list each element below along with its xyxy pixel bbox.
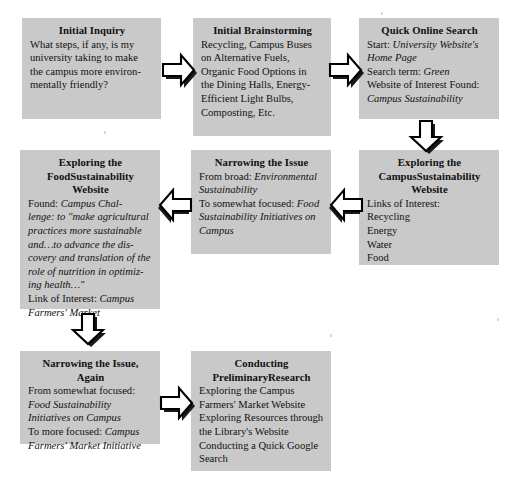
text-italic: Sustainability	[199, 184, 257, 195]
text-plain: Website of Interest Found:	[367, 79, 479, 90]
node-body-line: mentally friendly?	[30, 78, 154, 92]
node-initial-inquiry[interactable]: Initial Inquiry What steps, if any, is m…	[22, 18, 161, 119]
node-body-line: Search	[199, 452, 324, 466]
node-exploring-food-sustainability[interactable]: Exploring the FoodSustainability Website…	[20, 150, 160, 309]
arrow-brainstorming-to-search	[326, 48, 366, 92]
node-body-line: Exploring Resources through	[199, 411, 324, 425]
text-italic: Green	[423, 66, 449, 77]
node-body-line: the campus more environ-	[30, 65, 154, 79]
node-body: Links of Interest:RecyclingEnergyWaterFo…	[367, 197, 492, 265]
text-italic: Food Sustainability	[28, 399, 111, 410]
node-title: Narrowing the Issue, Again	[28, 357, 153, 384]
node-body-line: To somewhat focused: Food	[199, 197, 324, 211]
node-body-line: lenge: to "make agricultural	[28, 210, 153, 224]
node-body-line: the Dining Halls, Energy-	[201, 78, 324, 92]
node-body-line: and…to advance the dis-	[28, 238, 153, 252]
text-italic: ing health…"	[28, 279, 85, 290]
node-body-line: practices more sustainable	[28, 224, 153, 238]
node-body-line: Water	[367, 238, 492, 252]
node-body-line: university taking to make	[30, 51, 154, 65]
node-body-line: From somewhat focused:	[28, 384, 153, 398]
node-body-line: Sustainability Initiatives on	[199, 210, 324, 224]
node-body: Recycling, Campus Buseson Alternative Fu…	[201, 38, 324, 120]
text-italic: role of nutrition in optimiz-	[28, 266, 144, 277]
node-initial-brainstorming[interactable]: Initial Brainstorming Recycling, Campus …	[193, 18, 331, 136]
node-body-line: Efficient Light Bulbs,	[201, 92, 324, 106]
scan-speck	[104, 131, 106, 134]
node-body-line: Search term: Green	[367, 65, 492, 79]
node-title: Narrowing the Issue	[199, 156, 324, 170]
node-body-line: Campus	[199, 224, 324, 238]
node-body-line: What steps, if any, is my	[30, 38, 154, 52]
node-title: Initial Inquiry	[30, 24, 154, 38]
text-italic: University Website's	[393, 39, 479, 50]
text-plain: Start:	[367, 39, 393, 50]
node-title: Initial Brainstorming	[201, 24, 324, 38]
node-body-line: covery and translation of the	[28, 251, 153, 265]
text-italic: Farmers' Market Initiative	[28, 440, 141, 451]
node-body-line: Links of Interest:	[367, 197, 492, 211]
node-body-line: Food Sustainability	[28, 398, 153, 412]
text-italic: Food	[297, 198, 319, 209]
node-title-line: Research	[268, 371, 310, 383]
node-body-line: Farmers' Market Initiative	[28, 439, 153, 453]
text-italic: and…to advance the dis-	[28, 239, 134, 250]
arrow-search-to-campus-site	[404, 118, 448, 158]
node-body: Start: University Website'sHome PageSear…	[367, 38, 492, 106]
node-narrowing-the-issue-again[interactable]: Narrowing the Issue, Again From somewhat…	[20, 351, 160, 444]
scan-speck	[330, 334, 332, 337]
node-narrowing-the-issue[interactable]: Narrowing the Issue From broad: Environm…	[191, 150, 331, 254]
node-title-line: Sustainability Website	[70, 170, 134, 196]
text-italic: Campus	[100, 293, 135, 304]
text-plain: From broad:	[199, 171, 254, 182]
text-italic: Campus Sustainability	[367, 93, 463, 104]
node-body-line: Link of Interest: Campus	[28, 292, 153, 306]
text-plain: To more focused:	[28, 426, 105, 437]
text-plain: Found:	[28, 198, 61, 209]
scan-speck	[497, 318, 499, 321]
node-title: Quick Online Search	[367, 24, 492, 38]
arrow-narrowing-again-to-research	[157, 381, 197, 425]
text-italic: Campus	[105, 426, 140, 437]
node-quick-online-search[interactable]: Quick Online Search Start: University We…	[359, 18, 499, 119]
text-italic: Initiatives on Campus	[28, 412, 121, 423]
text-italic: Campus Chal-	[61, 198, 123, 209]
arrow-inquiry-to-brainstorming	[159, 48, 199, 92]
node-body-line: Website of Interest Found:	[367, 78, 492, 92]
node-body-line: Found: Campus Chal-	[28, 197, 153, 211]
node-body: What steps, if any, is myuniversity taki…	[30, 38, 154, 92]
node-body-line: Start: University Website's	[367, 38, 492, 52]
node-exploring-campus-sustainability[interactable]: Exploring the CampusSustainability Websi…	[359, 150, 499, 265]
flowchart-canvas: Initial Inquiry What steps, if any, is m…	[0, 0, 520, 495]
node-title: Exploring the FoodSustainability Website	[28, 156, 153, 197]
node-body-line: Organic Food Options in	[201, 65, 324, 79]
arrow-narrowing-to-food-site	[155, 183, 195, 227]
node-body-line: Farmers' Market Website	[199, 398, 324, 412]
text-plain: From somewhat focused:	[28, 385, 135, 396]
node-conducting-preliminary-research[interactable]: Conducting PreliminaryResearch Exploring…	[191, 351, 331, 471]
node-body-line: role of nutrition in optimiz-	[28, 265, 153, 279]
text-italic: practices more sustainable	[28, 225, 142, 236]
text-italic: Campus	[199, 225, 234, 236]
text-italic: Sustainability Initiatives on	[199, 211, 316, 222]
text-italic: Environmental	[254, 171, 317, 182]
node-body-line: Energy	[367, 224, 492, 238]
node-body-line: Recycling, Campus Buses	[201, 38, 324, 52]
node-body-line: Composting, Etc.	[201, 106, 324, 120]
node-body-line: ing health…"	[28, 278, 153, 292]
node-body-line: To more focused: Campus	[28, 425, 153, 439]
text-plain: Search term:	[367, 66, 423, 77]
node-body-line: Food	[367, 251, 492, 265]
node-body: Exploring the CampusFarmers' Market Webs…	[199, 384, 324, 466]
node-body: From broad: EnvironmentalSustainabilityT…	[199, 170, 324, 238]
node-body-line: Initiatives on Campus	[28, 411, 153, 425]
node-body-line: From broad: Environmental	[199, 170, 324, 184]
text-italic: covery and translation of the	[28, 252, 150, 263]
node-body-line: Sustainability	[199, 183, 324, 197]
node-body: Found: Campus Chal-lenge: to "make agric…	[28, 197, 153, 319]
arrow-food-site-to-narrowing-again	[66, 309, 110, 353]
node-body-line: Home Page	[367, 51, 492, 65]
node-body-line: Campus Sustainability	[367, 92, 492, 106]
scan-speck	[381, 12, 383, 15]
node-body-line: Conducting a Quick Google	[199, 439, 324, 453]
